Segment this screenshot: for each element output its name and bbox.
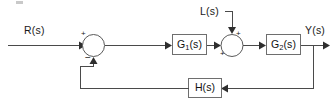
block-g2-subscript: 2 [279, 43, 283, 52]
sum2-plus-sign-left: + [220, 50, 225, 58]
block-g2-label: G2(s) [266, 38, 301, 50]
arrowhead-into-sum2-top [228, 27, 236, 34]
block-diagram-canvas: R(s) L(s) Y(s) G1(s) G2(s) H(s) + − + + [0, 0, 334, 110]
block-h-label: H(s) [188, 81, 222, 93]
sum1-plus-sign: + [81, 30, 86, 38]
label-disturbance-input: L(s) [200, 5, 219, 17]
arrowhead-into-g1 [165, 42, 172, 50]
scan-artifact [16, 1, 23, 4]
arrowhead-into-g2 [259, 42, 266, 50]
diagram-vector-layer [0, 0, 334, 110]
block-g1-suffix: (s) [190, 38, 203, 50]
sum2-plus-sign-top: + [236, 30, 241, 38]
block-g1-label: G1(s) [172, 38, 207, 50]
label-output: Y(s) [305, 24, 325, 36]
block-g1-base: G [177, 38, 185, 50]
block-g2-base: G [271, 38, 279, 50]
block-g2-suffix: (s) [284, 38, 297, 50]
arrowhead-into-h [221, 85, 228, 93]
sum1-minus-sign: − [85, 53, 91, 63]
label-reference-input: R(s) [24, 24, 45, 36]
arrowhead-output [323, 42, 330, 50]
block-g1-subscript: 1 [185, 43, 189, 52]
